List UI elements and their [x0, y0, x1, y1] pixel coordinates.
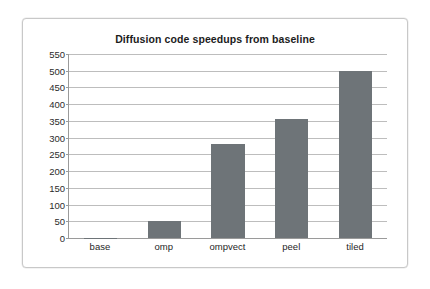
bar-tiled — [339, 71, 372, 238]
bar-slot — [260, 54, 324, 238]
y-axis-tick-label: 100 — [49, 199, 65, 210]
y-axis-tick-label: 400 — [49, 99, 65, 110]
x-axis-label-base: base — [68, 241, 132, 252]
y-axis-tick-label: 150 — [49, 182, 65, 193]
y-axis-tick-label: 500 — [49, 65, 65, 76]
y-axis-tick-label: 200 — [49, 166, 65, 177]
chart-title: Diffusion code speedups from baseline — [23, 33, 407, 45]
bar-omp — [148, 221, 181, 238]
plot-area: 050100150200250300350400450500550 — [68, 54, 387, 239]
x-axis-label-peel: peel — [259, 241, 323, 252]
bar-ompvect — [211, 144, 244, 238]
bar-peel — [275, 119, 308, 238]
plot-wrapper: 050100150200250300350400450500550 — [68, 54, 387, 239]
x-axis-label-tiled: tiled — [323, 241, 387, 252]
y-axis-tick-label: 250 — [49, 149, 65, 160]
y-axis-tick-label: 0 — [60, 233, 65, 244]
gridline — [69, 238, 387, 239]
chart-frame: Diffusion code speedups from baseline 05… — [22, 18, 408, 268]
bar-slot — [133, 54, 197, 238]
bar-slot — [323, 54, 387, 238]
x-axis-label-omp: omp — [132, 241, 196, 252]
bar-series — [69, 54, 387, 238]
y-axis-tick-label: 50 — [54, 216, 65, 227]
y-axis-tick-label: 450 — [49, 82, 65, 93]
y-axis-tick-label: 550 — [49, 49, 65, 60]
y-axis-tick-label: 350 — [49, 115, 65, 126]
bar-slot — [196, 54, 260, 238]
bar-slot — [69, 54, 133, 238]
x-axis-labels: baseompompvectpeeltiled — [68, 241, 387, 252]
x-axis-label-ompvect: ompvect — [196, 241, 260, 252]
y-tick-mark — [66, 238, 69, 239]
y-axis-tick-label: 300 — [49, 132, 65, 143]
